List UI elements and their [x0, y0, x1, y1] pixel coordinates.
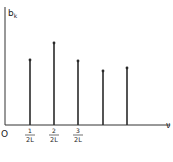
tick-labels: 12L22L32L [25, 127, 83, 144]
stem-marker [77, 60, 80, 63]
tick-label-3: 32L [73, 127, 83, 144]
tick-numerator: 1 [28, 127, 32, 134]
stem-4 [102, 70, 105, 125]
stem-marker [29, 59, 32, 62]
y-axis-label: bk [8, 8, 18, 19]
stem-marker [102, 70, 105, 73]
stem-marker [126, 67, 129, 70]
x-axis-label: ν [166, 121, 171, 130]
origin-label: O [1, 129, 8, 139]
tick-label-1: 12L [25, 127, 35, 144]
tick-denominator: 2L [50, 136, 58, 144]
stem-1 [29, 59, 32, 125]
stem-marker [53, 42, 56, 45]
tick-denominator: 2L [26, 136, 34, 144]
stem-5 [126, 67, 129, 125]
tick-denominator: 2L [74, 136, 82, 144]
stem-3 [77, 60, 80, 125]
tick-numerator: 3 [76, 127, 80, 134]
labels: bk ν O [1, 8, 171, 139]
tick-numerator: 2 [52, 127, 56, 134]
stem-chart: bk ν O 12L22L32L [0, 0, 173, 162]
tick-label-2: 22L [49, 127, 59, 144]
stems [29, 42, 129, 125]
stem-2 [53, 42, 56, 125]
